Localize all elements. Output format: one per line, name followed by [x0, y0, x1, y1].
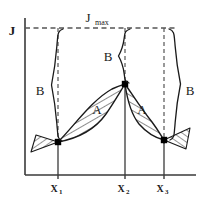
brace-middle	[119, 29, 131, 83]
x-tick-label-3: X 3	[156, 183, 169, 196]
x-tick-label-1-subscript: 1	[59, 188, 63, 196]
hatched-tail-right	[164, 128, 190, 149]
x-tick-label-3-base: X	[156, 183, 164, 194]
brace-left	[52, 29, 64, 141]
hatched-tail-left	[31, 135, 58, 152]
jmax-label: J max	[85, 10, 108, 27]
x-tick-label-2: X 2	[117, 183, 130, 196]
y-axis-label: J	[9, 23, 16, 38]
thermodynamic-flux-diagram: J J max B B B A A X 1 X 2 X 3	[0, 0, 210, 200]
area-label-right: A	[137, 102, 147, 117]
brace-label-middle: B	[104, 49, 113, 64]
brace-right	[169, 29, 181, 140]
figure-container: J J max B B B A A X 1 X 2 X 3	[0, 0, 210, 200]
area-label-left: A	[92, 102, 102, 117]
brace-label-right: B	[186, 83, 195, 98]
brace-label-left: B	[36, 83, 45, 98]
x-tick-label-1-base: X	[50, 183, 58, 194]
x-tick-label-2-base: X	[117, 183, 125, 194]
x-tick-label-2-subscript: 2	[126, 188, 130, 196]
x-tick-label-1: X 1	[50, 183, 63, 196]
node-marker-x3	[161, 137, 167, 143]
jmax-label-subscript: max	[95, 18, 109, 27]
jmax-label-base: J	[85, 10, 90, 25]
x-tick-label-3-subscript: 3	[165, 188, 169, 196]
